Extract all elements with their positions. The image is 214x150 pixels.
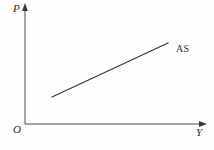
as-curve-line: [52, 43, 168, 97]
output-axis-label: Y: [196, 127, 202, 138]
price-axis-label: P: [13, 3, 20, 14]
origin-label: O: [13, 124, 21, 135]
price-axis-arrowhead-icon: [22, 3, 28, 11]
aggregate-supply-diagram: P O Y AS: [0, 0, 214, 150]
diagram-canvas: [0, 0, 214, 150]
as-curve-label: AS: [176, 44, 190, 54]
